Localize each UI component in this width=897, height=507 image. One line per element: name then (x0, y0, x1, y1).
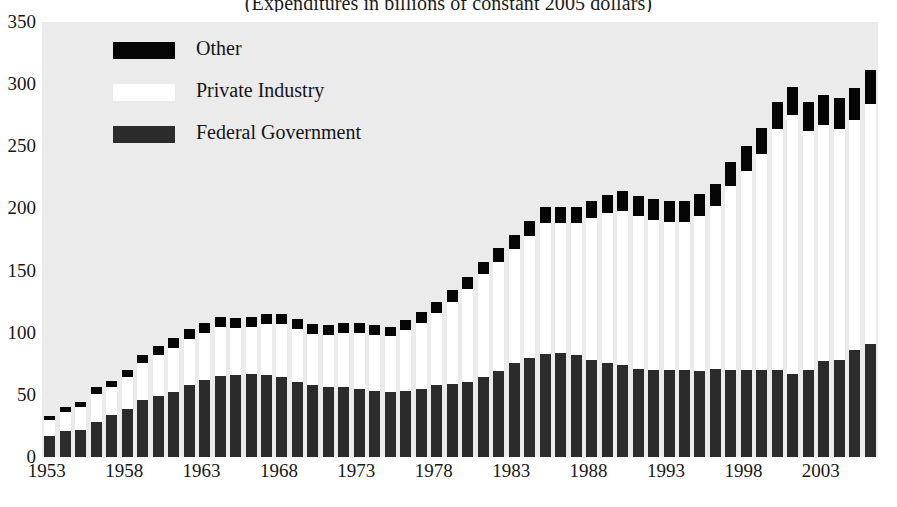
bar-segment-federal-government (865, 344, 876, 457)
figure-bottom-margin (0, 484, 897, 507)
bar-segment-federal-government (431, 385, 442, 457)
bar-segment-private-industry (571, 223, 582, 355)
bar-segment-private-industry (416, 323, 427, 389)
bar-segment-other (60, 407, 71, 412)
bar-segment-other (602, 195, 613, 214)
bar-segment-federal-government (153, 396, 164, 457)
bar-segment-federal-government (493, 371, 504, 457)
bar-segment-private-industry (369, 335, 380, 391)
bar-segment-private-industry (865, 104, 876, 344)
bar-segment-federal-government (741, 370, 752, 457)
bar-segment-federal-government (354, 389, 365, 457)
bar-segment-federal-government (292, 382, 303, 457)
legend-item-federal-government: Federal Government (113, 122, 453, 164)
bar-segment-other (710, 184, 721, 206)
bar-segment-other (818, 95, 829, 125)
bar-segment-federal-government (168, 392, 179, 457)
bar-segment-federal-government (261, 375, 272, 457)
bar-segment-private-industry (602, 213, 613, 362)
y-axis-tick-label: 300 (0, 74, 36, 93)
bar-segment-federal-government (694, 371, 705, 457)
bar-segment-private-industry (478, 274, 489, 377)
bar-segment-federal-government (338, 387, 349, 457)
bar-segment-private-industry (246, 327, 257, 374)
bar-segment-other (75, 402, 86, 407)
bar-segment-private-industry (60, 412, 71, 431)
bar-segment-other (246, 317, 257, 327)
bar-segment-private-industry (540, 223, 551, 354)
bar-segment-private-industry (710, 206, 721, 369)
bar-segment-private-industry (44, 420, 55, 436)
bar-segment-private-industry (818, 125, 829, 361)
bar-segment-private-industry (307, 334, 318, 385)
bar-segment-federal-government (586, 360, 597, 457)
bar-segment-private-industry (694, 216, 705, 371)
bar-segment-federal-government (571, 355, 582, 457)
chart-legend: Other Private Industry Federal Governmen… (113, 38, 453, 164)
bar-segment-federal-government (122, 409, 133, 457)
bar-segment-other (617, 191, 628, 211)
x-axis-tick-label: 1978 (415, 461, 453, 480)
bar-segment-private-industry (462, 289, 473, 382)
x-axis-tick-label: 1973 (337, 461, 375, 480)
bar-segment-federal-government (307, 385, 318, 457)
bar-segment-private-industry (586, 218, 597, 360)
legend-item-other: Other (113, 38, 453, 80)
bar-segment-private-industry (385, 336, 396, 392)
bar-segment-other (276, 314, 287, 324)
bar-segment-federal-government (276, 377, 287, 457)
y-axis-tick-label: 200 (0, 198, 36, 217)
bar-segment-private-industry (772, 129, 783, 370)
legend-swatch-private-industry (113, 84, 175, 101)
bar-segment-other (493, 248, 504, 262)
y-axis-tick-label: 150 (0, 261, 36, 280)
bar-segment-federal-government (710, 369, 721, 457)
x-axis-tick-label: 1958 (105, 461, 143, 480)
bar-segment-private-industry (122, 377, 133, 408)
bar-segment-private-industry (215, 327, 226, 377)
bar-segment-other (540, 207, 551, 223)
bar-segment-private-industry (230, 328, 241, 375)
bar-segment-other (787, 87, 798, 116)
bar-segment-private-industry (276, 324, 287, 377)
bar-segment-other (215, 317, 226, 327)
bar-segment-private-industry (261, 324, 272, 375)
bar-segment-private-industry (431, 313, 442, 385)
legend-swatch-other (113, 42, 175, 59)
bar-segment-other (772, 102, 783, 129)
bar-segment-private-industry (493, 262, 504, 371)
bar-segment-federal-government (756, 370, 767, 457)
bar-segment-other (369, 325, 380, 335)
bar-segment-federal-government (648, 370, 659, 457)
bar-segment-other (648, 199, 659, 220)
bar-segment-federal-government (772, 370, 783, 457)
legend-item-private-industry: Private Industry (113, 80, 453, 122)
bar-segment-federal-government (230, 375, 241, 457)
bar-segment-other (462, 277, 473, 289)
bar-segment-other (478, 262, 489, 274)
bar-segment-federal-government (106, 415, 117, 457)
bar-segment-other (153, 346, 164, 355)
bar-segment-private-industry (75, 407, 86, 429)
bar-segment-other (664, 201, 675, 222)
x-axis-tick-label: 2003 (802, 461, 840, 480)
bar-segment-federal-government (664, 370, 675, 457)
bar-segment-private-industry (400, 330, 411, 391)
bar-segment-private-industry (137, 363, 148, 400)
x-axis-tick-label: 1968 (260, 461, 298, 480)
bar-segment-private-industry (741, 171, 752, 370)
bar-segment-federal-government (323, 387, 334, 457)
bar-segment-federal-government (60, 431, 71, 457)
bar-segment-federal-government (803, 370, 814, 457)
bar-segment-federal-government (369, 391, 380, 457)
x-axis-tick-label: 1998 (724, 461, 762, 480)
bar-segment-federal-government (91, 422, 102, 457)
bar-segment-other (199, 323, 210, 333)
bar-segment-other (137, 355, 148, 362)
bar-segment-other (168, 338, 179, 348)
bar-segment-federal-government (540, 354, 551, 457)
bar-segment-other (292, 319, 303, 329)
bar-segment-other (338, 323, 349, 333)
bar-segment-private-industry (555, 223, 566, 352)
bar-segment-other (447, 290, 458, 301)
